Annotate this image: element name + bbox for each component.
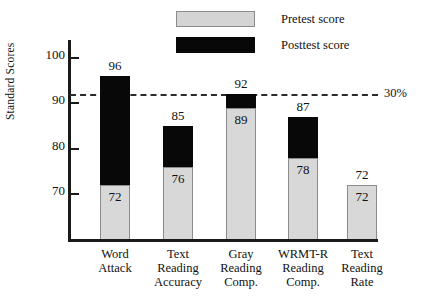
y-tick-label-70: 70 — [52, 184, 65, 197]
x-axis-line — [68, 239, 378, 242]
bar-value-top: 85 — [172, 109, 185, 122]
bar-value-inside: 72 — [356, 190, 369, 203]
y-axis-title: Standard Scores — [4, 0, 16, 120]
bar-value-inside: 76 — [172, 172, 185, 185]
bar-group[interactable]: 8778 — [288, 40, 318, 239]
x-axis-label-line: Text — [329, 247, 395, 261]
bar-group[interactable]: 9672 — [100, 40, 130, 239]
y-axis-line — [68, 40, 71, 242]
y-tick-100: 100 — [71, 57, 79, 59]
y-tick-80: 80 — [71, 148, 79, 150]
x-axis-label-line: Comp. — [270, 275, 336, 289]
x-axis-label: WordAttack — [82, 247, 148, 275]
y-tick-70: 70 — [71, 193, 79, 195]
x-axis-label: WRMT-RReadingComp. — [270, 247, 336, 289]
x-axis-label-line: WRMT-R — [270, 247, 336, 261]
legend-label-pretest: Pretest score — [281, 13, 345, 26]
bar-value-top: 72 — [356, 168, 369, 181]
y-tick-90: 90 — [71, 102, 79, 104]
bar-value-inside: 78 — [297, 163, 310, 176]
bar-group[interactable]: 8576 — [163, 40, 193, 239]
bar-pretest[interactable] — [226, 108, 256, 239]
x-axis-label-line: Comp. — [208, 275, 274, 289]
x-axis-label: GrayReadingComp. — [208, 247, 274, 289]
y-tick-label-80: 80 — [52, 139, 65, 152]
y-tick-label-100: 100 — [46, 48, 66, 61]
x-axis-label-line: Rate — [329, 275, 395, 289]
x-axis-label-line: Reading — [145, 261, 211, 275]
bar-value-inside: 89 — [235, 113, 248, 126]
bar-value-inside: 72 — [109, 190, 122, 203]
bar-value-top: 87 — [297, 100, 310, 113]
x-axis-label: TextReadingRate — [329, 247, 395, 289]
x-axis-label-line: Reading — [270, 261, 336, 275]
x-axis-label-line: Accuracy — [145, 275, 211, 289]
bar-value-top: 92 — [235, 77, 248, 90]
x-axis-label-line: Reading — [208, 261, 274, 275]
x-axis-label-line: Gray — [208, 247, 274, 261]
x-axis-label-line: Attack — [82, 261, 148, 275]
bar-value-top: 96 — [109, 59, 122, 72]
legend-item-pretest: Pretest score — [176, 9, 426, 29]
y-tick-label-90: 90 — [52, 93, 65, 106]
bar-group[interactable]: 7272 — [347, 40, 377, 239]
threshold-label: 30% — [384, 87, 407, 100]
x-axis-label: TextReadingAccuracy — [145, 247, 211, 289]
x-axis-label-line: Word — [82, 247, 148, 261]
bar-chart: Pretest score Posttest score Standard Sc… — [0, 0, 429, 304]
x-axis-label-line: Reading — [329, 261, 395, 275]
x-axis-label-line: Text — [145, 247, 211, 261]
pretest-swatch-icon — [176, 11, 255, 27]
bar-group[interactable]: 9289 — [226, 40, 256, 239]
plot-area: 708090100 30% 96728576928987787272 — [68, 40, 378, 242]
